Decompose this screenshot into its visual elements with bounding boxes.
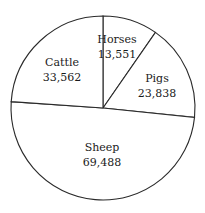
slice-label-horses: Horses [97,33,137,46]
slice-value-pigs: 23,838 [138,87,177,100]
slice-label-pigs: Pigs [145,72,169,85]
slice-value-sheep: 69,488 [83,156,122,169]
slice-label-sheep: Sheep [85,141,120,154]
slice-value-horses: 13,551 [98,48,137,61]
pie-chart: Horses13,551Pigs23,838Sheep69,488Cattle3… [0,0,205,213]
slice-label-cattle: Cattle [45,56,79,69]
slice-value-cattle: 33,562 [43,71,82,84]
